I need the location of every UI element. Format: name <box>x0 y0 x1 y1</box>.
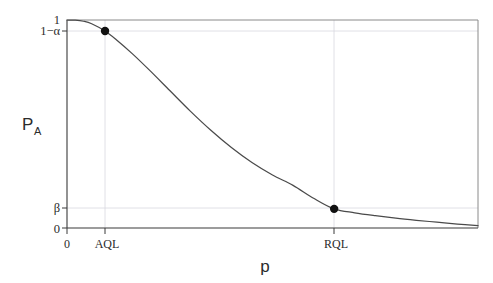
chart-background <box>0 0 493 283</box>
aql-point-marker <box>101 27 109 35</box>
oc-curve-chart: 1 1−α β 0 0 AQL RQL P A p <box>0 0 493 283</box>
x-tick-label-rql: RQL <box>324 237 348 251</box>
y-tick-label-zero: 0 <box>54 222 60 236</box>
rql-point-marker <box>330 205 338 213</box>
y-axis-title-subscript: A <box>34 125 42 137</box>
x-axis-title: p <box>260 257 269 276</box>
y-axis-title: P <box>22 115 33 134</box>
x-tick-label-aql: AQL <box>95 237 120 251</box>
y-tick-label-beta: β <box>54 201 60 215</box>
x-tick-label-zero: 0 <box>64 237 70 251</box>
y-tick-label-one-minus-alpha: 1−α <box>40 24 60 38</box>
